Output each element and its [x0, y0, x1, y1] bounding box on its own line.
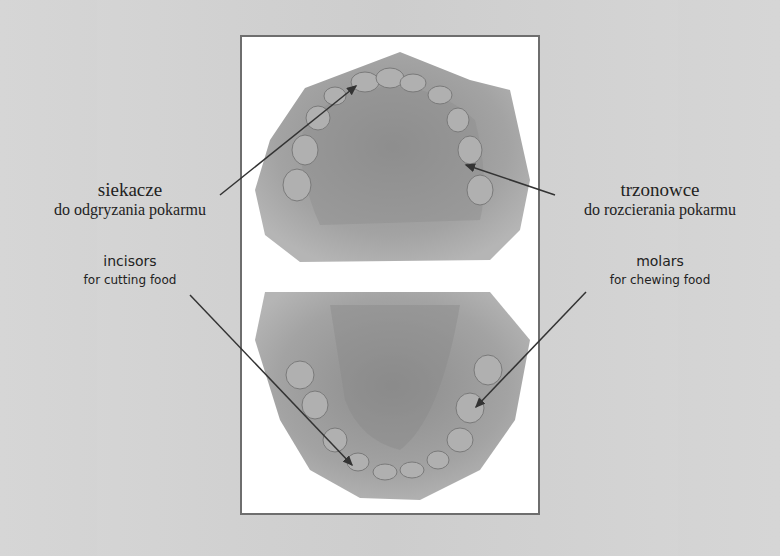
label-incisors-pl-title: siekacze [30, 180, 230, 200]
label-molars-pl: trzonowce do rozcierania pokarmu [540, 180, 780, 220]
label-molars-pl-title: trzonowce [540, 180, 780, 200]
label-incisors-en-subtitle: for cutting food [40, 271, 220, 289]
upper-jaw-cast [255, 52, 530, 262]
label-molars-en-title: molars [570, 251, 750, 271]
lower-jaw-cast [255, 292, 530, 500]
label-incisors-en-title: incisors [40, 251, 220, 271]
label-molars-en: molars for chewing food [570, 251, 750, 289]
label-molars-en-subtitle: for chewing food [570, 271, 750, 289]
label-incisors-pl-subtitle: do odgryzania pokarmu [30, 200, 230, 220]
label-incisors-pl: siekacze do odgryzania pokarmu [30, 180, 230, 220]
label-incisors-en: incisors for cutting food [40, 251, 220, 289]
label-molars-pl-subtitle: do rozcierania pokarmu [540, 200, 780, 220]
